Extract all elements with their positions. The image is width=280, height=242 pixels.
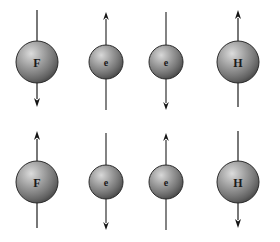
particle-top-fluorine: F xyxy=(16,10,58,107)
spin-arrow-head-up-top-hydrogen xyxy=(235,10,241,19)
sphere-label-top-hydrogen: H xyxy=(233,56,243,70)
particle-top-electron-2: e xyxy=(149,12,183,110)
particle-top-hydrogen: H xyxy=(217,10,259,107)
sphere-label-bottom-hydrogen: H xyxy=(233,176,243,190)
sphere-label-bottom-fluorine: F xyxy=(33,176,40,190)
spin-arrow-head-down-bottom-hydrogen xyxy=(235,219,241,228)
particle-top-electron-1: e xyxy=(89,12,123,110)
spin-arrow-head-down-top-fluorine xyxy=(34,98,40,107)
spin-arrow-head-up-bottom-electron-2 xyxy=(163,133,169,141)
bottom-row: FeeH xyxy=(16,131,259,230)
particle-bottom-fluorine: F xyxy=(16,131,58,228)
sphere-label-bottom-electron-1: e xyxy=(104,177,109,188)
spin-arrow-head-down-top-electron-2 xyxy=(163,102,169,110)
sphere-label-top-electron-2: e xyxy=(164,57,169,68)
sphere-label-top-fluorine: F xyxy=(33,56,40,70)
sphere-label-bottom-electron-2: e xyxy=(164,177,169,188)
spin-diagram-canvas: FeeHFeeH xyxy=(0,0,280,242)
particle-bottom-electron-2: e xyxy=(149,133,183,230)
top-row: FeeH xyxy=(16,10,259,110)
sphere-label-top-electron-1: e xyxy=(104,57,109,68)
particle-bottom-electron-1: e xyxy=(89,133,123,230)
spin-diagram-figure: FeeHFeeH xyxy=(0,0,280,242)
spin-arrow-head-up-bottom-fluorine xyxy=(34,131,40,140)
spin-arrow-head-up-top-electron-1 xyxy=(103,12,109,20)
spin-arrow-head-down-bottom-electron-1 xyxy=(103,222,109,230)
particle-bottom-hydrogen: H xyxy=(217,131,259,228)
